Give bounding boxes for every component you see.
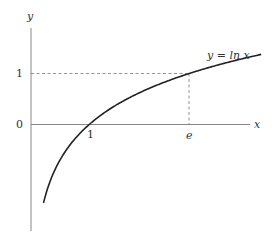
y-tick-1: 1 — [16, 67, 23, 80]
x-tick-e: e — [186, 129, 193, 142]
ln-graph: y x 1 0 1 e y = ln x — [0, 0, 277, 239]
y-tick-0: 0 — [16, 118, 23, 131]
x-axis-label: x — [254, 118, 261, 131]
x-tick-1: 1 — [87, 128, 94, 141]
ln-curve — [44, 54, 262, 203]
y-axis-label: y — [26, 10, 34, 23]
curve-label: y = ln x — [206, 49, 251, 62]
